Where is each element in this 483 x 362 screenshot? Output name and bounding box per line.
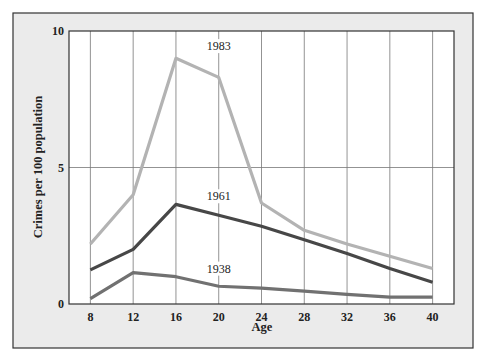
line-chart: 81216202428323640 0510 198319611938 Age … xyxy=(0,0,483,362)
series-label-1938: 1938 xyxy=(207,262,231,276)
x-tick-label: 36 xyxy=(384,310,396,324)
x-tick-label: 40 xyxy=(427,310,439,324)
x-tick-label: 32 xyxy=(341,310,353,324)
y-axis-label: Crimes per 100 population xyxy=(31,96,45,239)
x-tick-label: 16 xyxy=(170,310,182,324)
y-tick-label: 10 xyxy=(52,24,64,38)
x-tick-label: 12 xyxy=(127,310,139,324)
y-tick-label: 0 xyxy=(58,297,64,311)
x-tick-label: 20 xyxy=(213,310,225,324)
x-tick-label: 8 xyxy=(87,310,93,324)
x-tick-label: 28 xyxy=(298,310,310,324)
y-tick-label: 5 xyxy=(58,161,64,175)
series-label-1961: 1961 xyxy=(207,189,231,203)
series-label-1983: 1983 xyxy=(207,39,231,53)
x-axis-label: Age xyxy=(252,320,273,334)
